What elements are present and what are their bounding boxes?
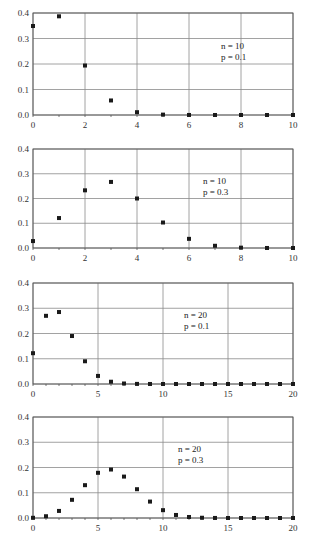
- y-tick-label: 0.4: [18, 412, 30, 422]
- y-tick-label: 0.0: [18, 379, 30, 389]
- data-point: [213, 516, 217, 520]
- data-point: [213, 382, 217, 386]
- data-point: [291, 246, 295, 250]
- x-tick-label: 5: [96, 523, 101, 533]
- data-point: [239, 382, 243, 386]
- data-point: [239, 246, 243, 250]
- y-tick-label: 0.1: [18, 85, 29, 95]
- data-point: [187, 515, 191, 519]
- x-tick-label: 0: [31, 389, 36, 399]
- data-point: [200, 516, 204, 520]
- chart-panel-3: 0.00.10.20.30.405101520n = 20p = 0.1: [18, 278, 298, 399]
- data-point: [57, 310, 61, 314]
- x-tick-label: 10: [289, 253, 299, 263]
- data-point: [57, 14, 61, 18]
- data-point: [83, 188, 87, 192]
- data-point: [265, 516, 269, 520]
- data-point: [291, 113, 295, 117]
- data-point: [31, 516, 35, 520]
- x-tick-label: 6: [187, 253, 192, 263]
- data-point: [278, 516, 282, 520]
- parameter-annotation: n = 20: [184, 310, 208, 320]
- chart-panel-1: 0.00.10.20.30.40246810n = 10p = 0.1: [18, 8, 298, 130]
- y-tick-label: 0.4: [18, 144, 30, 154]
- data-point: [148, 382, 152, 386]
- y-tick-label: 0.2: [18, 59, 29, 69]
- data-point: [213, 244, 217, 248]
- x-tick-label: 0: [31, 253, 36, 263]
- data-point: [83, 64, 87, 68]
- x-tick-label: 8: [239, 253, 244, 263]
- x-tick-label: 8: [239, 120, 244, 130]
- x-tick-label: 4: [135, 120, 140, 130]
- data-point: [109, 468, 113, 472]
- data-point: [265, 382, 269, 386]
- x-tick-label: 20: [289, 389, 299, 399]
- y-tick-label: 0.3: [18, 34, 30, 44]
- data-point: [96, 374, 100, 378]
- data-point: [31, 24, 35, 28]
- y-tick-label: 0.0: [18, 110, 30, 120]
- data-point: [187, 113, 191, 117]
- x-tick-label: 10: [289, 120, 299, 130]
- data-point: [31, 351, 35, 355]
- y-tick-label: 0.1: [18, 354, 29, 364]
- data-point: [161, 508, 165, 512]
- data-point: [252, 382, 256, 386]
- y-tick-label: 0.0: [18, 243, 30, 253]
- data-point: [122, 381, 126, 385]
- data-point: [109, 380, 113, 384]
- data-point: [265, 113, 269, 117]
- x-tick-label: 2: [83, 253, 88, 263]
- data-point: [239, 113, 243, 117]
- x-tick-label: 0: [31, 523, 36, 533]
- parameter-annotation: n = 10: [221, 41, 245, 51]
- data-point: [161, 382, 165, 386]
- data-point: [213, 113, 217, 117]
- data-point: [135, 110, 139, 114]
- y-tick-label: 0.2: [18, 329, 29, 339]
- data-point: [278, 382, 282, 386]
- x-tick-label: 15: [224, 389, 234, 399]
- y-tick-label: 0.4: [18, 278, 30, 288]
- data-point: [44, 514, 48, 518]
- data-point: [31, 239, 35, 243]
- data-point: [291, 516, 295, 520]
- data-point: [161, 221, 165, 225]
- y-tick-label: 0.4: [18, 8, 30, 18]
- data-point: [70, 498, 74, 502]
- parameter-annotation: p = 0.3: [178, 455, 204, 465]
- data-point: [174, 513, 178, 517]
- data-point: [83, 483, 87, 487]
- data-point: [83, 359, 87, 363]
- data-point: [239, 516, 243, 520]
- chart-panel-4: 0.00.10.20.30.405101520n = 20p = 0.3: [18, 412, 298, 533]
- data-point: [135, 487, 139, 491]
- data-point: [200, 382, 204, 386]
- x-tick-label: 6: [187, 120, 192, 130]
- data-point: [135, 197, 139, 201]
- data-point: [109, 98, 113, 102]
- data-point: [44, 314, 48, 318]
- y-tick-label: 0.3: [18, 303, 30, 313]
- data-point: [187, 382, 191, 386]
- data-point: [291, 382, 295, 386]
- x-tick-label: 10: [159, 389, 169, 399]
- x-tick-label: 4: [135, 253, 140, 263]
- data-point: [57, 216, 61, 220]
- y-tick-label: 0.2: [18, 463, 29, 473]
- x-tick-label: 5: [96, 389, 101, 399]
- data-point: [265, 246, 269, 250]
- data-point: [135, 382, 139, 386]
- data-point: [70, 334, 74, 338]
- data-point: [148, 500, 152, 504]
- y-tick-label: 0.0: [18, 513, 30, 523]
- parameter-annotation: p = 0.1: [184, 321, 209, 331]
- data-point: [57, 509, 61, 513]
- y-tick-label: 0.3: [18, 169, 30, 179]
- data-point: [187, 237, 191, 241]
- x-tick-label: 20: [289, 523, 299, 533]
- data-point: [252, 516, 256, 520]
- y-tick-label: 0.3: [18, 437, 30, 447]
- x-tick-label: 0: [31, 120, 36, 130]
